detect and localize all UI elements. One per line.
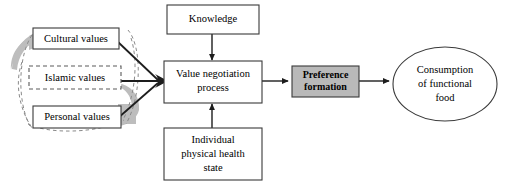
preference-formation-label-line2: formation [304, 81, 347, 92]
diagram-root: Cultural values Islamic values Personal … [0, 0, 507, 184]
knowledge-label: Knowledge [189, 13, 238, 24]
node-islamic-values[interactable]: Islamic values [29, 66, 121, 89]
consumption-label-line1: Consumption [417, 64, 474, 75]
node-value-negotiation-process[interactable]: Value negotiation process [164, 61, 262, 103]
consumption-label-line3: food [435, 92, 455, 103]
node-preference-formation[interactable]: Preference formation [292, 66, 359, 97]
value-negotiation-process-label-line2: process [197, 82, 229, 93]
individual-physical-health-state-label-line1: Individual [191, 134, 234, 145]
node-consumption-of-functional-food[interactable]: Consumption of functional food [393, 47, 497, 121]
node-individual-physical-health-state[interactable]: Individual physical health state [164, 128, 262, 180]
consumption-label-line2: of functional [418, 78, 472, 89]
individual-physical-health-state-label-line3: state [203, 162, 223, 173]
node-personal-values[interactable]: Personal values [33, 106, 121, 128]
individual-physical-health-state-label-line2: physical health [181, 148, 245, 159]
value-negotiation-process-label-line1: Value negotiation [176, 68, 251, 79]
islamic-values-label: Islamic values [45, 72, 105, 83]
personal-values-label: Personal values [44, 111, 110, 122]
cultural-values-label: Cultural values [44, 33, 108, 44]
node-knowledge[interactable]: Knowledge [167, 5, 259, 34]
node-cultural-values[interactable]: Cultural values [33, 28, 119, 49]
preference-formation-label-line1: Preference [303, 69, 349, 80]
diagram-canvas: Cultural values Islamic values Personal … [0, 0, 507, 184]
